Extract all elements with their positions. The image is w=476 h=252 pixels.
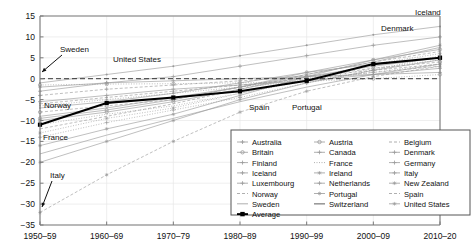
series-point [238, 64, 242, 68]
series-point [305, 89, 309, 93]
series-point [306, 44, 308, 46]
series-point [171, 108, 175, 112]
series-point [172, 119, 176, 123]
legend-item-label: New Zealand [404, 179, 449, 188]
annotation-label: France [43, 133, 68, 142]
x-tick-label: 2000–09 [357, 231, 390, 241]
series-point [106, 97, 108, 99]
series-point [239, 86, 241, 88]
series-point [372, 34, 374, 36]
figure-container: 151050−5−10−15−20−25−30−351950–591960–69… [0, 0, 476, 252]
average-series-point [371, 62, 375, 66]
legend-item-label: Germany [404, 159, 435, 168]
series-point [239, 82, 241, 84]
series-point [238, 98, 242, 102]
legend-item-label: France [329, 159, 353, 168]
series-point [305, 54, 309, 58]
y-tick-label: 10 [26, 32, 36, 42]
legend-item-label: Average [252, 210, 280, 219]
y-tick-label: −25 [21, 178, 36, 188]
x-tick-label: 1970–79 [157, 231, 190, 241]
series-point [371, 43, 375, 47]
legend-item-label: Netherlands [329, 179, 370, 188]
average-series-point [171, 95, 175, 99]
annotation-label: Iceland [415, 8, 441, 17]
legend-marker-star [318, 192, 322, 196]
annotation-arrowhead [42, 202, 46, 207]
y-tick-label: 5 [30, 53, 35, 63]
series-point [238, 110, 242, 114]
x-tick-label: 1960–69 [90, 231, 123, 241]
legend-item-label: Portugal [329, 190, 358, 199]
annotation-label: Denmark [381, 24, 414, 33]
series-point [371, 73, 375, 77]
series-point [305, 75, 309, 79]
legend-item-label: Canada [329, 148, 356, 157]
series-point [105, 140, 109, 144]
annotation-label: Italy [50, 171, 65, 180]
average-series-point [305, 79, 309, 83]
series-point [171, 75, 175, 79]
x-tick-label: 1980–89 [223, 231, 256, 241]
legend-marker-square [240, 212, 244, 216]
legend-item-label: Switzerland [329, 200, 368, 209]
legend-item-label: Belgium [404, 138, 431, 147]
y-tick-label: −20 [21, 157, 36, 167]
legend-item-label: Denmark [404, 148, 435, 157]
annotation-label: Spain [249, 103, 269, 112]
y-tick-label: 15 [26, 11, 36, 21]
series-point [172, 92, 174, 94]
series-point [172, 65, 174, 67]
legend-item-label: Italy [404, 169, 418, 178]
legend-marker-star [393, 202, 397, 206]
annotation-label: United States [113, 55, 161, 64]
series-point [172, 90, 174, 92]
series-point [239, 55, 241, 57]
legend-marker-star [318, 171, 322, 175]
legend-item-label: United States [404, 200, 450, 209]
legend: AustraliaBritainFinlandIcelandLuxembourg… [231, 130, 470, 219]
y-tick-label: −30 [21, 199, 36, 209]
legend-item-label: Australia [252, 138, 282, 147]
y-tick-label: 0 [30, 74, 35, 84]
legend-item-label: Austria [329, 138, 353, 147]
legend-item-label: Sweden [252, 200, 279, 209]
x-tick-label: 2010–20 [423, 231, 456, 241]
y-tick-label: −5 [25, 95, 35, 105]
series-point [105, 127, 109, 131]
legend-item-label: Spain [404, 190, 423, 199]
series-point [172, 112, 176, 116]
legend-marker-star [393, 181, 397, 185]
x-tick-label: 1990–99 [290, 231, 323, 241]
legend-item-label: Ireland [329, 169, 352, 178]
series-point [171, 79, 175, 83]
series-point [105, 173, 109, 177]
annotation-label: Norway [44, 101, 71, 110]
legend-item-label: Finland [252, 159, 277, 168]
series-point [106, 74, 108, 76]
series-point [105, 121, 109, 125]
average-series-point [238, 89, 242, 93]
annotation-label: Portugal [292, 103, 322, 112]
legend-item-label: Norway [252, 190, 278, 199]
x-tick-label: 1950–59 [23, 231, 56, 241]
series-point [105, 87, 109, 91]
series-point [172, 140, 176, 144]
y-tick-label: −10 [21, 116, 36, 126]
line-chart: 151050−5−10−15−20−25−30−351950–591960–69… [0, 0, 476, 252]
series-point [105, 117, 109, 121]
series-point [106, 99, 108, 101]
y-tick-label: −15 [21, 136, 36, 146]
average-series-point [105, 101, 109, 105]
legend-item-label: Britain [252, 148, 274, 157]
legend-item-label: Iceland [252, 169, 277, 178]
legend-item-label: Luxembourg [252, 179, 294, 188]
annotation-label: Sweden [60, 45, 89, 54]
y-tick-label: −35 [21, 220, 36, 230]
